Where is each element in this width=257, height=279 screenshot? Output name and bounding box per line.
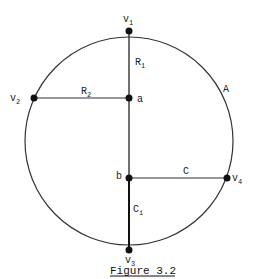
label-b: b xyxy=(116,171,122,182)
label-a: a xyxy=(137,94,143,105)
label-R1: R1 xyxy=(135,57,145,70)
figure-caption: Figure 3.2 xyxy=(110,265,176,277)
diagram-canvas: v1 R1 v2 R2 a A b C v4 Ci v3 Figure 3.2 xyxy=(0,0,257,279)
label-R2: R2 xyxy=(81,86,91,99)
label-C: C xyxy=(183,166,189,177)
vertex-b xyxy=(126,175,133,182)
label-v4: v4 xyxy=(232,173,242,186)
label-v1: v1 xyxy=(123,14,133,27)
vertex-v4 xyxy=(224,175,231,182)
label-A: A xyxy=(223,84,229,95)
label-Ci: Ci xyxy=(133,204,143,217)
vertex-v3 xyxy=(126,247,133,254)
vertex-v1 xyxy=(126,28,133,35)
label-v2: v2 xyxy=(10,93,20,106)
vertex-a xyxy=(126,95,133,102)
vertex-v2 xyxy=(31,95,38,102)
